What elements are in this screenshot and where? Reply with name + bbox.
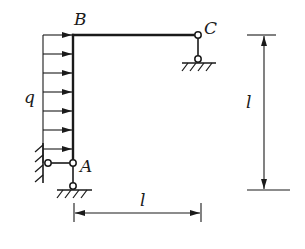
dimension-horizontal <box>74 203 201 222</box>
ground-hatch-c-icon <box>182 63 212 71</box>
label-c: C <box>204 18 217 38</box>
frame-diagram: B C A q l l <box>0 0 305 249</box>
label-b: B <box>73 9 87 29</box>
frame <box>73 35 195 160</box>
label-dim-vertical: l <box>246 92 251 112</box>
hinge-wall-icon <box>45 160 51 166</box>
hinge-c-ground-icon <box>195 56 201 62</box>
wall-hatch-icon <box>35 145 43 182</box>
distributed-load <box>43 35 72 163</box>
hinge-a-ground-icon <box>70 183 76 189</box>
label-dim-horizontal: l <box>140 190 145 210</box>
label-q: q <box>24 87 35 107</box>
dimension-vertical <box>247 35 290 190</box>
label-a: A <box>78 156 92 176</box>
ground-hatch-a-icon <box>57 190 87 198</box>
hinge-c-icon <box>195 32 201 38</box>
hinge-a-icon <box>70 160 76 166</box>
